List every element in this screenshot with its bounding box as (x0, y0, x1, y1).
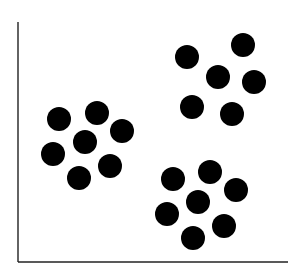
data-point (242, 70, 266, 94)
scatter-plot (0, 0, 298, 280)
cluster-left (41, 101, 134, 190)
data-point (224, 178, 248, 202)
data-point (98, 154, 122, 178)
data-point (155, 202, 179, 226)
data-point (212, 214, 236, 238)
data-point (47, 107, 71, 131)
cluster-top-right (175, 33, 266, 126)
data-point (198, 160, 222, 184)
data-point (220, 102, 244, 126)
data-point (175, 45, 199, 69)
data-point (73, 130, 97, 154)
cluster-bottom-right (155, 160, 248, 250)
data-point (110, 119, 134, 143)
data-point (161, 167, 185, 191)
data-point (67, 166, 91, 190)
data-point (206, 65, 230, 89)
data-point (180, 95, 204, 119)
data-point (186, 190, 210, 214)
data-points (41, 33, 266, 250)
data-point (41, 142, 65, 166)
data-point (231, 33, 255, 57)
data-point (181, 226, 205, 250)
data-point (85, 101, 109, 125)
